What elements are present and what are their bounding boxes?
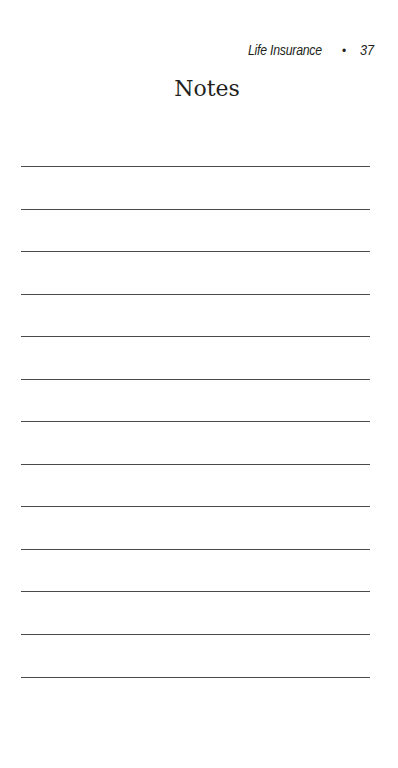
running-head: Life Insurance • 37 <box>0 41 398 61</box>
running-head-title: Life Insurance <box>248 41 322 58</box>
note-line <box>21 251 370 252</box>
note-line <box>21 294 370 295</box>
note-line <box>21 634 370 635</box>
note-line <box>21 677 370 678</box>
running-head-separator: • <box>342 41 346 61</box>
note-line <box>21 464 370 465</box>
note-line <box>21 166 370 167</box>
note-line <box>21 549 370 550</box>
page-title: Notes <box>0 76 398 101</box>
note-line <box>21 379 370 380</box>
note-line <box>21 336 370 337</box>
note-line <box>21 421 370 422</box>
note-line <box>21 209 370 210</box>
note-line <box>21 506 370 507</box>
page-number: 37 <box>360 41 374 58</box>
note-line <box>21 591 370 592</box>
